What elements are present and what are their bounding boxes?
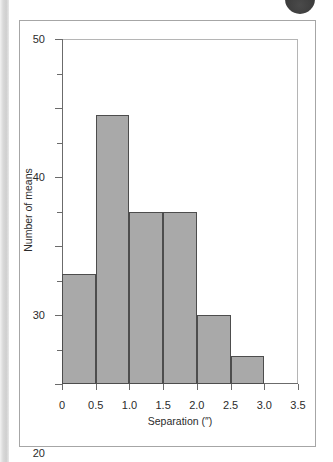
y-tick-major: 30	[55, 177, 62, 178]
x-tick: 2.0	[197, 384, 198, 390]
y-tick-minor	[57, 212, 62, 213]
x-tick-label: 2.5	[223, 399, 238, 411]
x-axis-title: Separation (″)	[62, 415, 298, 427]
x-tick: 0.5	[96, 384, 97, 390]
y-axis-title: Number of means	[22, 168, 34, 251]
x-tick: 1.5	[163, 384, 164, 390]
y-tick-major: 0	[55, 384, 62, 385]
x-tick: 3.0	[264, 384, 265, 390]
y-tick-minor	[57, 281, 62, 282]
x-tick-label: 0	[59, 399, 65, 411]
histogram-bar	[62, 274, 96, 384]
histogram-bar	[96, 115, 130, 384]
plot-area: 01020304050 00.51.01.52.02.53.03.5	[62, 39, 298, 384]
x-tick-label: 1.0	[122, 399, 137, 411]
page-gutter-strip	[0, 0, 9, 462]
histogram-bar	[231, 356, 265, 384]
y-tick-minor	[57, 143, 62, 144]
x-tick-label: 0.5	[88, 399, 103, 411]
histogram-bar	[197, 315, 231, 384]
page-corner-badge-icon	[285, 0, 315, 14]
histogram-bar	[163, 212, 197, 385]
histogram-bars	[62, 39, 298, 384]
x-tick-label: 2.0	[189, 399, 204, 411]
x-tick: 2.5	[231, 384, 232, 390]
x-tick: 1.0	[129, 384, 130, 390]
x-tick-label: 3.0	[257, 399, 272, 411]
y-tick-label: 20	[33, 447, 45, 459]
y-tick-label: 30	[33, 309, 45, 321]
y-tick-label: 50	[33, 33, 45, 45]
y-tick-minor	[57, 74, 62, 75]
y-tick-label: 40	[33, 171, 45, 183]
x-tick: 0	[62, 384, 63, 390]
x-tick: 3.5	[298, 384, 299, 390]
histogram-bar	[129, 212, 163, 385]
x-tick-label: 3.5	[290, 399, 305, 411]
y-tick-major: 40	[55, 108, 62, 109]
y-tick-major: 50	[55, 39, 62, 40]
x-tick-label: 1.5	[155, 399, 170, 411]
y-tick-major: 10	[55, 315, 62, 316]
y-tick-minor	[57, 350, 62, 351]
y-tick-major: 20	[55, 246, 62, 247]
